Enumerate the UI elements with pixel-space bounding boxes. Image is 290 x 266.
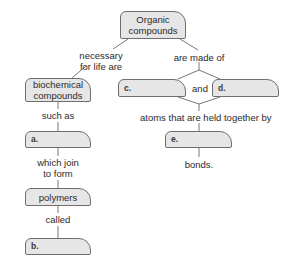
node-blank-d[interactable]: d.	[212, 79, 279, 97]
link-called: called	[40, 214, 76, 225]
link-necessary-line1: necessary	[78, 50, 124, 61]
blank-d-label: d.	[218, 83, 226, 94]
link-necessary-line2: for life are	[78, 61, 124, 72]
link-atoms-held-together: atoms that are held together by	[140, 112, 258, 123]
node-polymers: polymers	[25, 188, 91, 206]
link-bonds: bonds.	[180, 159, 218, 170]
link-are-made-of: are made of	[170, 52, 228, 63]
link-which-join-line1: which join	[33, 157, 83, 168]
link-such-as: such as	[38, 110, 78, 121]
blank-c-label: c.	[124, 83, 131, 94]
node-organic-line2: compounds	[128, 25, 177, 36]
node-biochemical-compounds: biochemical compounds	[25, 78, 91, 102]
node-blank-e[interactable]: e.	[165, 131, 232, 148]
node-blank-c[interactable]: c.	[118, 79, 186, 97]
link-which-join-to-form: which join to form	[33, 157, 83, 179]
node-biochemical-line1: biochemical	[33, 79, 83, 90]
link-necessary-for-life: necessary for life are	[78, 50, 124, 72]
link-which-join-line2: to form	[33, 168, 83, 179]
node-organic-compounds: Organic compounds	[120, 11, 186, 39]
blank-a-label: a.	[31, 134, 38, 145]
node-biochemical-line2: compounds	[33, 90, 82, 101]
node-organic-line1: Organic	[136, 14, 169, 25]
concept-map: Organic compounds necessary for life are…	[0, 0, 290, 266]
blank-e-label: e.	[171, 134, 178, 145]
link-and: and	[190, 83, 210, 94]
node-polymers-label: polymers	[39, 192, 78, 203]
blank-b-label: b.	[31, 241, 39, 252]
node-blank-a[interactable]: a.	[25, 131, 91, 148]
node-blank-b[interactable]: b.	[25, 238, 91, 255]
